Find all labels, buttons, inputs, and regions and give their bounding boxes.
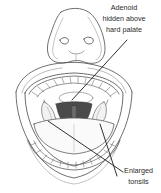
label-adenoid: Adenoid hidden above hard palate [88,2,160,35]
label-adenoid-line2: hidden above [88,13,160,24]
illustration-page: Adenoid hidden above hard palate Enlarge… [0,0,161,193]
label-adenoid-line1: Adenoid [88,2,160,13]
label-tonsils-line1: Enlarged [116,165,161,176]
label-adenoid-line3: hard palate [88,24,160,35]
label-enlarged-tonsils: Enlarged tonsils [116,165,161,187]
label-tonsils-line2: tonsils [116,176,161,187]
